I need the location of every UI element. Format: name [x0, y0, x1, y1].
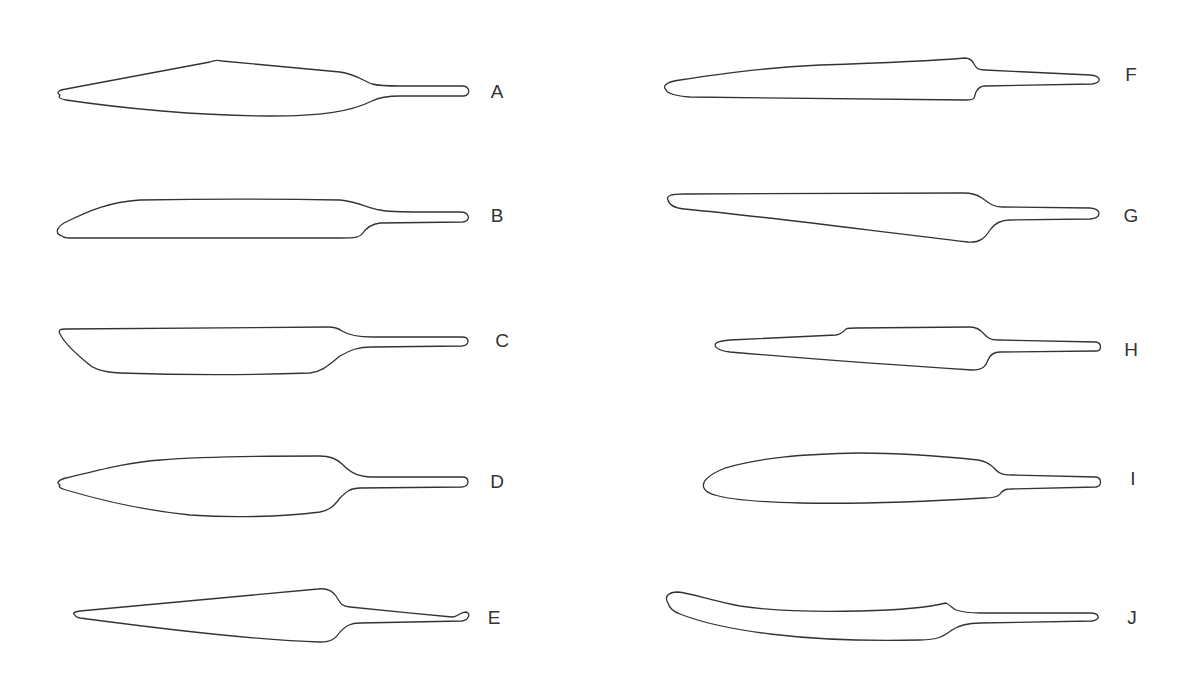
- blade-outline-i: [703, 453, 1100, 503]
- blade-outline-a: [58, 60, 469, 116]
- blade-label-b: B: [491, 206, 504, 225]
- blade-outline-h: [715, 327, 1100, 370]
- blade-outline-b: [57, 199, 468, 238]
- blade-label-i: I: [1130, 469, 1135, 488]
- blade-outline-e: [74, 589, 469, 642]
- blade-outlines-figure: [0, 0, 1192, 675]
- blade-outline-j: [666, 592, 1098, 640]
- blade-label-g: G: [1124, 206, 1139, 225]
- blade-outline-f: [665, 58, 1100, 100]
- blade-outline-c: [59, 327, 468, 375]
- blade-label-c: C: [495, 331, 509, 350]
- blade-label-h: H: [1124, 340, 1138, 359]
- blade-outline-g: [668, 193, 1099, 242]
- blade-outline-d: [58, 456, 468, 517]
- blade-label-f: F: [1125, 65, 1137, 84]
- blade-label-j: J: [1127, 608, 1137, 627]
- blade-label-a: A: [491, 82, 504, 101]
- blade-label-d: D: [490, 472, 504, 491]
- blade-label-e: E: [488, 608, 501, 627]
